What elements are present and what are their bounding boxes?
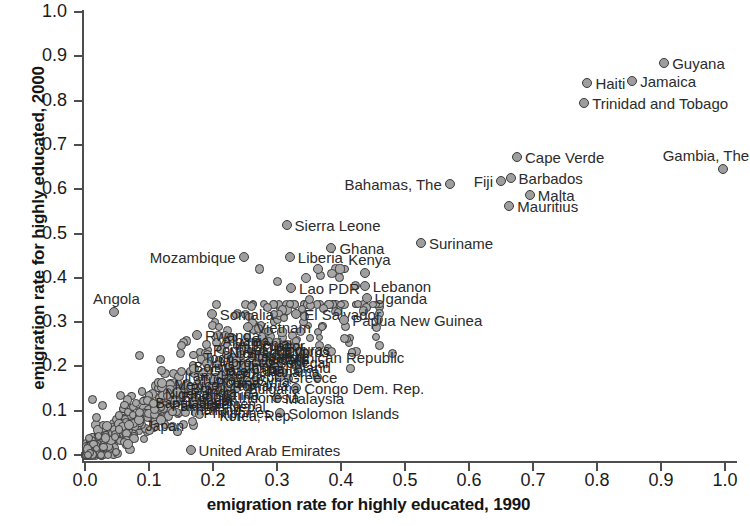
data-point-ireland — [272, 362, 282, 372]
y-tick-mark — [74, 410, 82, 412]
data-point — [351, 281, 360, 290]
point-label-uganda: Uganda — [375, 291, 428, 306]
data-point — [87, 445, 95, 453]
data-point — [156, 355, 165, 364]
data-point — [111, 435, 119, 443]
data-point — [88, 439, 97, 448]
data-point — [156, 403, 165, 412]
data-point — [131, 412, 141, 422]
data-point — [84, 443, 94, 453]
data-point — [348, 348, 357, 357]
data-point — [165, 380, 174, 389]
data-point — [105, 442, 114, 451]
point-label-overlapping: Honduras — [269, 343, 330, 357]
data-point — [95, 433, 103, 441]
y-tick-mark — [74, 11, 82, 13]
data-point — [129, 418, 138, 427]
data-point — [93, 448, 102, 457]
point-label-overlapping: Bangladesh — [155, 396, 229, 410]
data-point — [97, 447, 107, 457]
data-point — [93, 425, 103, 435]
data-point — [313, 264, 323, 274]
data-point — [118, 422, 127, 431]
data-point — [95, 438, 104, 447]
data-point — [196, 348, 204, 356]
data-point — [149, 424, 158, 433]
data-point — [92, 448, 101, 457]
y-tick-mark — [74, 100, 82, 102]
data-point — [282, 340, 291, 349]
data-point — [232, 356, 241, 365]
data-point — [87, 451, 95, 459]
data-point — [155, 394, 163, 402]
data-point — [177, 341, 186, 350]
data-point — [203, 396, 213, 406]
data-point — [272, 351, 281, 360]
data-point — [106, 433, 115, 442]
data-point — [130, 417, 138, 425]
data-point — [91, 441, 100, 450]
data-point — [175, 379, 183, 387]
data-point — [103, 429, 112, 438]
data-point — [332, 265, 340, 273]
y-tick-label: 0.7 — [21, 134, 67, 155]
point-label-greece: Greece — [288, 370, 337, 385]
data-point — [273, 314, 282, 323]
data-point — [88, 438, 96, 446]
data-point — [327, 347, 336, 356]
data-point — [91, 447, 100, 456]
data-point — [164, 396, 172, 404]
data-point-rwanda — [192, 330, 202, 340]
data-point — [305, 322, 313, 330]
data-point — [127, 392, 135, 400]
data-point — [280, 341, 290, 351]
point-label-congo-dem-rep: Congo Dem. Rep. — [304, 381, 424, 396]
data-point — [221, 340, 230, 349]
data-point — [93, 445, 101, 453]
y-tick-mark — [74, 454, 82, 456]
data-point-lebanon — [360, 281, 370, 291]
data-point-ghana — [326, 243, 336, 253]
data-point — [219, 378, 228, 387]
data-point — [101, 433, 110, 442]
data-point — [101, 445, 110, 454]
data-point — [131, 423, 139, 431]
x-tick-label: 0.7 — [508, 470, 558, 491]
data-point — [249, 300, 257, 308]
point-label-overlapping: Nicaragua — [229, 346, 293, 360]
data-point — [195, 410, 204, 419]
data-point — [104, 448, 112, 456]
data-point — [161, 401, 171, 411]
point-label-liberia: Liberia — [298, 250, 343, 265]
data-point — [85, 446, 93, 454]
data-point — [121, 415, 130, 424]
data-point — [265, 337, 273, 345]
data-point — [182, 336, 192, 346]
data-point — [173, 396, 182, 405]
data-point — [244, 381, 254, 391]
data-point-vietnam — [243, 322, 253, 332]
data-point — [95, 451, 104, 460]
data-point — [303, 300, 311, 308]
data-point — [95, 442, 104, 451]
data-point — [85, 450, 94, 459]
data-point — [89, 448, 98, 457]
data-point — [121, 419, 130, 428]
data-point — [280, 342, 288, 350]
data-point — [84, 441, 92, 449]
data-point — [204, 366, 213, 375]
data-point — [173, 408, 181, 416]
data-point — [254, 324, 263, 333]
data-point — [84, 451, 93, 460]
data-point — [150, 405, 159, 414]
data-point — [101, 438, 110, 447]
data-point — [298, 347, 307, 356]
data-point — [91, 420, 100, 429]
data-point — [249, 348, 258, 357]
data-point — [300, 312, 309, 321]
data-point — [177, 367, 186, 376]
data-point — [84, 447, 94, 457]
data-point — [359, 306, 368, 315]
data-point — [151, 381, 160, 390]
